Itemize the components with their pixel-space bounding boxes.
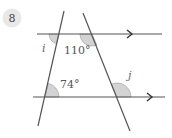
angle-j-label: j <box>125 69 132 82</box>
angle-74-label: 74° <box>60 78 80 91</box>
problem-number-badge: 8 <box>3 9 22 28</box>
left-transversal <box>38 11 64 126</box>
angle-i-label: i <box>42 42 46 55</box>
geometry-diagram: 8 i 110° 74° j <box>0 0 172 138</box>
right-transversal <box>83 13 130 131</box>
angle-110-label: 110° <box>64 44 91 57</box>
problem-number: 8 <box>9 12 16 25</box>
